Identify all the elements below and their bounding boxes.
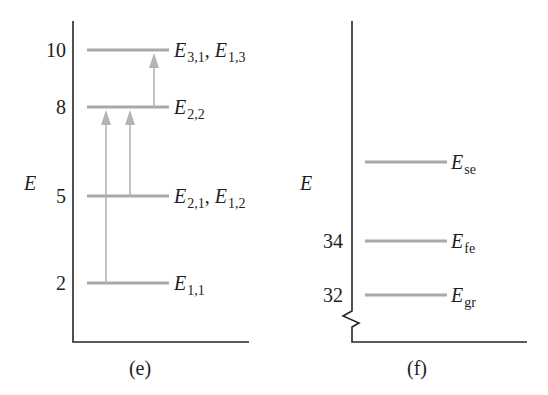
- tick-label-34: 34: [323, 230, 343, 252]
- panel-f-axis-label: E: [299, 172, 312, 194]
- panel-e-axis-label: E: [23, 172, 36, 194]
- arrowhead-icon: [149, 53, 159, 68]
- level-label-Efe: Efe: [450, 230, 475, 256]
- panel-f-caption: (f): [407, 357, 427, 380]
- arrowhead-icon: [125, 110, 135, 125]
- arrowhead-icon: [101, 110, 111, 125]
- tick-label-10: 10: [46, 39, 66, 61]
- tick-label-8: 8: [56, 96, 66, 118]
- panel-e: E 10 8 5 2 E3,1, E1,3 E2,2: [23, 21, 249, 380]
- tick-label-32: 32: [323, 284, 343, 306]
- tick-label-2: 2: [56, 272, 66, 294]
- level-label-E21-E12: E2,1, E1,2: [173, 185, 245, 211]
- panel-e-axes: [73, 21, 249, 342]
- transition-arrow-8-to-10: [149, 53, 159, 107]
- level-label-Egr: Egr: [450, 284, 476, 310]
- transition-arrow-5-to-8: [125, 110, 135, 196]
- energy-level-figure: E 10 8 5 2 E3,1, E1,3 E2,2: [0, 0, 548, 395]
- level-label-E31-E13: E3,1, E1,3: [173, 39, 245, 65]
- level-label-Ese: Ese: [450, 151, 476, 177]
- level-label-E11: E1,1: [173, 272, 205, 298]
- panel-e-caption: (e): [129, 357, 151, 380]
- panel-f: E 34 32 Ese Efe Egr (f): [299, 21, 527, 380]
- level-label-E22: E2,2: [173, 96, 205, 122]
- tick-label-5: 5: [56, 185, 66, 207]
